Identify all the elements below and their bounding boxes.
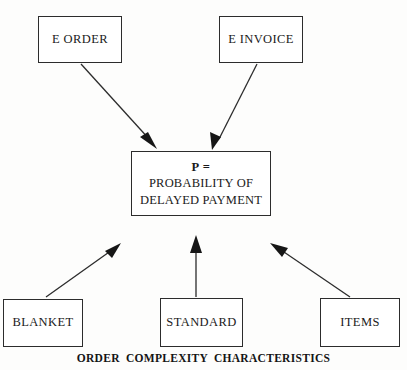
node-e-invoice-label: E INVOICE (228, 32, 294, 48)
node-items[interactable]: ITEMS (320, 298, 400, 347)
node-standard[interactable]: STANDARD (160, 298, 243, 347)
diagram-canvas: E ORDER E INVOICE P = PROBABILITY OF DEL… (0, 0, 407, 370)
arrow-standard-to-probability (190, 235, 202, 297)
probability-line-2: PROBABILITY OF (149, 175, 253, 192)
node-blanket-label: BLANKET (12, 315, 73, 331)
probability-formula-label: P = (192, 159, 211, 176)
node-items-label: ITEMS (340, 315, 380, 331)
arrow-blanket-to-probability (46, 243, 121, 297)
node-e-invoice[interactable]: E INVOICE (219, 16, 303, 63)
order-complexity-characteristics-caption: ORDER COMPLEXITY CHARACTERISTICS (0, 352, 407, 364)
probability-line-3: DELAYED PAYMENT (140, 192, 262, 209)
node-standard-label: STANDARD (166, 315, 236, 331)
arrow-e-order-to-probability (81, 64, 157, 149)
arrow-e-invoice-to-probability (210, 64, 257, 150)
node-e-order-label: E ORDER (52, 32, 108, 48)
node-e-order[interactable]: E ORDER (38, 16, 122, 63)
node-blanket[interactable]: BLANKET (3, 299, 83, 347)
arrow-items-to-probability (270, 243, 350, 297)
node-probability-of-delayed-payment[interactable]: P = PROBABILITY OF DELAYED PAYMENT (131, 151, 271, 216)
